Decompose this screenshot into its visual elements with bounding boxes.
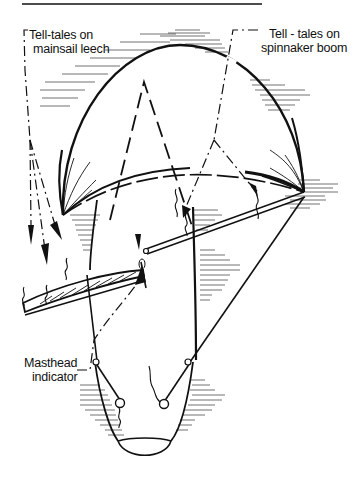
spinnaker (59, 45, 304, 226)
arrow-icon (248, 182, 258, 197)
boat-hull (93, 359, 193, 455)
spinnaker-boom (144, 192, 306, 254)
main-boom (23, 270, 145, 315)
shading-hatches (40, 30, 338, 435)
label-masthead-indicator: Masthead indicator (24, 356, 77, 384)
label-masthead-line1: Masthead (24, 356, 77, 370)
label-spinnaker-boom-line2: spinnaker boom (261, 41, 347, 55)
label-mainsail-leech: Tell-tales on mainsail leech (29, 28, 109, 56)
label-mainsail-leech-line2: mainsail leech (29, 42, 109, 56)
arrow-icon (50, 221, 62, 240)
label-mainsail-leech-line1: Tell-tales on (29, 28, 109, 42)
arrow-icon (135, 234, 141, 250)
label-spinnaker-boom-line1: Tell - tales on (261, 27, 347, 41)
leader-lines (24, 30, 258, 370)
arrow-icon (182, 205, 191, 218)
label-spinnaker-boom: Tell - tales on spinnaker boom (261, 27, 347, 55)
label-masthead-line2: indicator (24, 370, 77, 384)
arrow-icon (28, 225, 34, 245)
spinnaker-diagram (0, 0, 358, 484)
arrow-icon (41, 243, 49, 265)
